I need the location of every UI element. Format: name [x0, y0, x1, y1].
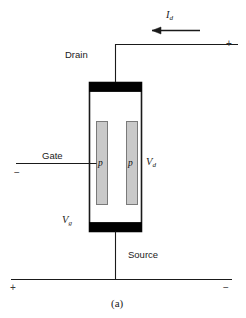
gate-voltage-label: Vg — [62, 215, 72, 227]
drain-current-label: Id — [166, 10, 173, 22]
source-label: Source — [128, 250, 158, 260]
drain-label: Drain — [65, 50, 88, 60]
drain-circuit-wire — [116, 45, 239, 83]
gate-circuit-minus-sign: − — [14, 168, 20, 178]
jfet-schematic-drawing — [0, 0, 246, 318]
drain-circuit-plus-sign: + — [226, 39, 232, 49]
source-circuit-plus-sign: + — [10, 283, 16, 293]
gate-label: Gate — [42, 151, 63, 161]
figure-caption: (a) — [111, 298, 123, 309]
p-region-left-label: p — [98, 159, 103, 169]
drain-current-arrow — [152, 27, 200, 34]
drain-contact-bar — [90, 83, 142, 92]
source-contact-bar — [90, 223, 142, 232]
jfet-figure: Id + Drain Gate − p p Vd Vg Source + − (… — [0, 0, 246, 318]
gate-voltage-subscript: g — [68, 219, 72, 227]
drain-voltage-subscript: d — [152, 161, 156, 169]
figure-caption-text: (a) — [111, 297, 123, 309]
p-region-right-label: p — [128, 159, 133, 169]
source-circuit-minus-sign: − — [223, 283, 229, 293]
drain-voltage-label: Vd — [146, 157, 156, 169]
drain-current-subscript: d — [170, 14, 174, 22]
